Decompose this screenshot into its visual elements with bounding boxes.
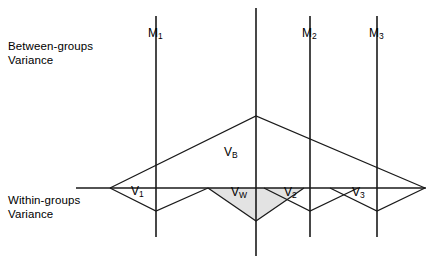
mean-label-m3-base: M <box>369 26 379 40</box>
variance-label-vb-sub: B <box>232 150 238 160</box>
variance-label-v2-base: V <box>284 185 292 199</box>
variance-label-v1: V1 <box>131 184 144 199</box>
mean-label-m3: M3 <box>369 26 384 41</box>
within-groups-variance-label: Within-groups Variance <box>8 194 80 221</box>
variance-label-vw: VW <box>231 185 247 200</box>
variance-label-v2-sub: 2 <box>292 190 297 200</box>
mean-label-m1: M1 <box>148 26 163 41</box>
variance-label-v3-base: V <box>352 185 360 199</box>
mean-label-m2: M2 <box>302 26 317 41</box>
mean-label-m2-base: M <box>302 26 312 40</box>
variance-label-v1-base: V <box>131 184 139 198</box>
variance-label-v1-sub: 1 <box>139 189 144 199</box>
mean-label-m2-sub: 2 <box>312 31 317 41</box>
variance-label-v3: V3 <box>352 185 365 200</box>
mean-label-m1-base: M <box>148 26 158 40</box>
between-groups-variance-label: Between-groups Variance <box>8 40 93 67</box>
within-triangle-v1 <box>110 188 208 211</box>
variance-label-vb: VB <box>224 145 238 160</box>
variance-label-v3-sub: 3 <box>360 190 365 200</box>
variance-label-vb-base: V <box>224 145 232 159</box>
mean-label-m1-sub: 1 <box>158 31 163 41</box>
variance-label-vw-base: V <box>231 185 239 199</box>
variance-label-vw-sub: W <box>239 190 247 200</box>
diagram-canvas: Between-groups Variance Within-groups Va… <box>0 0 438 256</box>
mean-label-m3-sub: 3 <box>379 31 384 41</box>
variance-label-v2: V2 <box>284 185 297 200</box>
